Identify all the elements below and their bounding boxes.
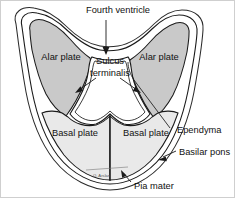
pons-cross-section-diagram: Fourth ventricle Sulcus terminalis Alar … bbox=[0, 0, 236, 199]
label-ependyma: Ependyma bbox=[177, 125, 222, 135]
label-alar-plate-left: Alar plate bbox=[41, 52, 80, 62]
label-basilar-pons: Basilar pons bbox=[179, 147, 231, 157]
artist-signature: O. Arslan bbox=[93, 173, 111, 178]
label-pia-mater: Pia mater bbox=[134, 181, 174, 191]
label-sulcus-terminalis-line2: terminalis bbox=[90, 68, 130, 78]
anatomy-figure: Fourth ventricle Sulcus terminalis Alar … bbox=[0, 0, 236, 199]
label-alar-plate-right: Alar plate bbox=[139, 52, 178, 62]
label-basal-plate-right: Basal plate bbox=[123, 128, 169, 138]
label-sulcus-terminalis-line1: Sulcus bbox=[96, 56, 124, 66]
label-fourth-ventricle: Fourth ventricle bbox=[86, 5, 150, 15]
label-basal-plate-left: Basal plate bbox=[52, 128, 98, 138]
